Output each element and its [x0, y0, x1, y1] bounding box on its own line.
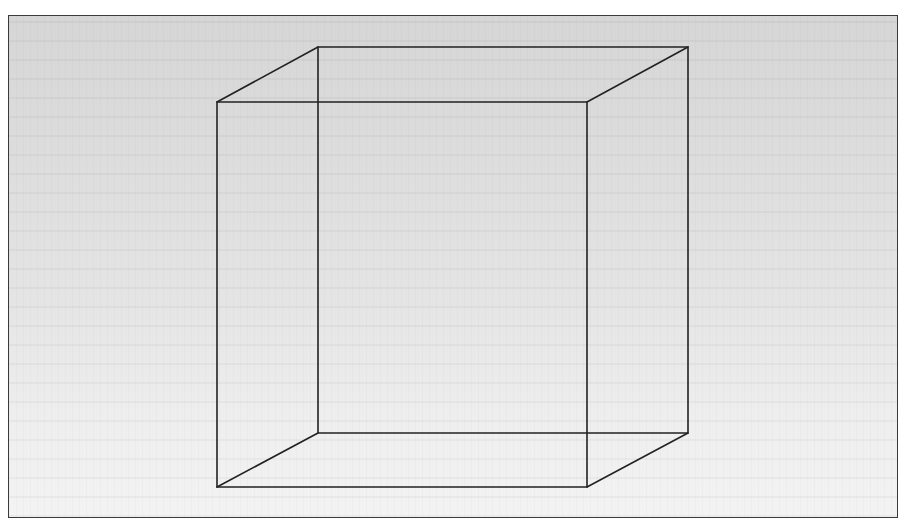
- necker-cube: [0, 0, 904, 528]
- front-square: [217, 102, 587, 487]
- back-face: [318, 47, 688, 433]
- back-square: [318, 47, 688, 433]
- edge-top-right: [587, 47, 688, 102]
- edge-bottom-right: [587, 433, 688, 487]
- front-face: [217, 102, 587, 487]
- edge-top-left: [217, 47, 318, 102]
- edge-bottom-left: [217, 433, 318, 487]
- connecting-edges: [217, 47, 688, 487]
